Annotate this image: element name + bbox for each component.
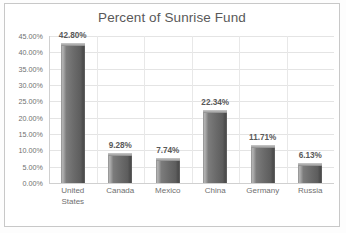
y-axis-tick-label: 30.00% <box>5 81 46 90</box>
x-axis-category-label: Germany <box>246 186 279 197</box>
y-axis-tick-label: 35.00% <box>5 64 46 73</box>
bar[interactable] <box>251 145 275 183</box>
x-axis-category-label-line: Canada <box>106 186 134 197</box>
y-axis-tick-label: 40.00% <box>5 48 46 57</box>
y-axis-tick-label: 20.00% <box>5 113 46 122</box>
bars-layer: 42.80%9.28%7.74%22.34%11.71%6.13% <box>49 36 334 183</box>
chart-frame: Percent of Sunrise Fund 0.00%5.00%10.00%… <box>4 3 340 227</box>
x-axis-category-label-line: United <box>61 186 84 197</box>
y-axis-tick-label: 10.00% <box>5 146 46 155</box>
x-axis-line <box>49 183 334 184</box>
bar-slot <box>192 36 240 183</box>
x-axis-category-label-line: Germany <box>246 186 279 197</box>
bar-slot <box>49 36 97 183</box>
bar-top-cap <box>156 158 180 161</box>
bar[interactable] <box>298 163 322 183</box>
y-axis-tick-label: 5.00% <box>5 162 46 171</box>
bar[interactable] <box>156 158 180 183</box>
chart-title: Percent of Sunrise Fund <box>5 10 339 25</box>
bar-data-label: 42.80% <box>59 31 87 40</box>
bar-top-cap <box>251 145 275 148</box>
y-axis-tick-label: 15.00% <box>5 130 46 139</box>
x-axis-category-label: UnitedStates <box>61 186 84 207</box>
x-axis-category-label: Russia <box>298 186 322 197</box>
bar-slot <box>144 36 192 183</box>
x-axis-category-label-line: Russia <box>298 186 322 197</box>
x-axis-category-label: China <box>205 186 226 197</box>
y-axis-tick-label: 45.00% <box>5 32 46 41</box>
x-axis-category-label-line: Mexico <box>155 186 180 197</box>
bar[interactable] <box>203 110 227 183</box>
bar[interactable] <box>108 153 132 183</box>
bar-top-cap <box>61 43 85 46</box>
x-axis-category-label-line: States <box>61 197 84 208</box>
y-axis-tick-label: 25.00% <box>5 97 46 106</box>
bar-data-label: 6.13% <box>299 151 322 160</box>
bar-data-label: 22.34% <box>201 98 229 107</box>
x-axis-category-label: Mexico <box>155 186 180 197</box>
bar-slot <box>287 36 335 183</box>
bar-slot <box>239 36 287 183</box>
bar[interactable] <box>61 43 85 183</box>
plot-area: 42.80%9.28%7.74%22.34%11.71%6.13% <box>49 36 334 183</box>
bar-data-label: 11.71% <box>249 133 276 142</box>
bar-top-cap <box>203 110 227 113</box>
bar-data-label: 9.28% <box>109 141 132 150</box>
bar-top-cap <box>298 163 322 166</box>
x-axis-category-label: Canada <box>106 186 134 197</box>
y-axis-line <box>49 36 50 184</box>
bar-data-label: 7.74% <box>156 146 179 155</box>
x-axis-category-label-line: China <box>205 186 226 197</box>
y-axis-tick-label: 0.00% <box>5 179 46 188</box>
bar-top-cap <box>108 153 132 156</box>
y-axis-tick-labels: 0.00%5.00%10.00%15.00%20.00%25.00%30.00%… <box>5 36 46 183</box>
x-axis-category-labels: UnitedStatesCanadaMexicoChinaGermanyRuss… <box>49 186 334 226</box>
bar-slot <box>97 36 145 183</box>
chart-screenshot: Percent of Sunrise Fund 0.00%5.00%10.00%… <box>0 0 346 233</box>
